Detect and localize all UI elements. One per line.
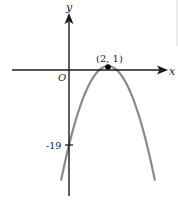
y-intercept-label: -19 <box>46 140 61 151</box>
vertex-label: (2, 1) <box>96 53 123 64</box>
parabola-curve <box>61 66 155 180</box>
x-axis-label: x <box>169 65 176 78</box>
y-axis-label: y <box>65 1 73 14</box>
graph-figure: y x O (2, 1) -19 <box>0 0 178 202</box>
vertex-point <box>105 64 111 70</box>
origin-label: O <box>58 72 66 83</box>
parabola-graph: y x O (2, 1) -19 <box>0 0 178 202</box>
